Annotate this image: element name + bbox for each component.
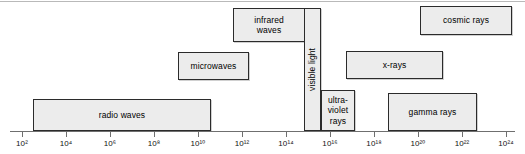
axis-tick <box>418 131 419 137</box>
axis-tick <box>506 131 507 137</box>
axis-tick <box>110 131 111 137</box>
band-label-visible-light: visible light <box>307 46 317 93</box>
axis-tick <box>286 131 287 137</box>
axis-tick-label: 10²² <box>455 139 470 148</box>
band-label-infrared-waves: infrared waves <box>252 15 286 36</box>
axis-tick-label: 10⁸ <box>148 139 161 148</box>
axis-tick <box>22 131 23 137</box>
axis-tick-label: 10¹⁶ <box>322 139 337 148</box>
band-cosmic-rays: cosmic rays <box>420 6 512 35</box>
axis-tick <box>462 131 463 137</box>
band-label-cosmic-rays: cosmic rays <box>441 15 491 25</box>
band-infrared-waves: infrared waves <box>233 8 305 42</box>
axis-tick-label: 10²⁰ <box>411 139 426 148</box>
band-x-rays: x-rays <box>346 51 443 79</box>
axis-tick-label: 10¹² <box>235 139 250 148</box>
axis-tick <box>154 131 155 137</box>
axis-tick-label: 10¹⁸ <box>366 139 381 148</box>
band-label-radio-waves: radio waves <box>97 110 147 120</box>
axis-tick <box>374 131 375 137</box>
axis-tick-label: 10²⁴ <box>498 139 513 148</box>
top-divider <box>0 1 525 2</box>
band-label-x-rays: x-rays <box>381 60 409 70</box>
axis-tick <box>330 131 331 137</box>
axis-tick <box>198 131 199 137</box>
axis-tick-label: 10¹⁰ <box>191 139 206 148</box>
axis-tick-label: 10⁶ <box>104 139 117 148</box>
axis-tick <box>242 131 243 137</box>
band-visible-light: visible light <box>304 8 321 131</box>
band-radio-waves: radio waves <box>33 99 211 131</box>
axis-line <box>10 131 515 132</box>
band-label-gamma-rays: gamma rays <box>407 107 459 117</box>
band-microwaves: microwaves <box>178 52 249 80</box>
axis-tick-label: 10¹⁴ <box>278 139 293 148</box>
axis-tick <box>66 131 67 137</box>
axis-tick-label: 10² <box>16 139 28 148</box>
band-ultraviolet-rays: ultra- violet rays <box>321 90 355 131</box>
band-label-microwaves: microwaves <box>189 61 239 71</box>
band-label-ultraviolet-rays: ultra- violet rays <box>326 95 350 126</box>
electromagnetic-spectrum-figure: radio wavesmicrowavesinfrared wavesvisib… <box>0 0 525 154</box>
axis-tick-label: 10⁴ <box>60 139 73 148</box>
band-gamma-rays: gamma rays <box>388 93 477 131</box>
